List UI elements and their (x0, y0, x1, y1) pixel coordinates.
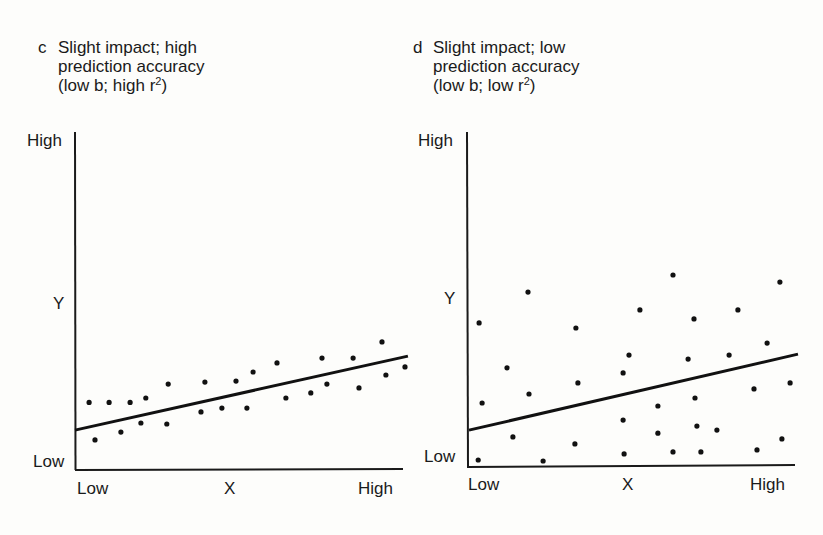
data-point (692, 395, 697, 400)
data-point (622, 451, 627, 456)
data-point (504, 365, 509, 370)
data-point (128, 400, 133, 405)
data-point (694, 424, 699, 429)
data-point (274, 360, 279, 365)
data-point (87, 400, 92, 405)
data-point (164, 421, 169, 426)
data-point (655, 431, 660, 436)
data-point (698, 449, 703, 454)
data-point (626, 353, 631, 358)
panel-c-y-axis (75, 132, 76, 470)
data-point (166, 382, 171, 387)
data-point (480, 400, 485, 405)
scatter-plots (0, 0, 823, 535)
data-point (754, 447, 759, 452)
data-point (621, 370, 626, 375)
data-point (143, 395, 148, 400)
data-point (714, 428, 719, 433)
data-point (379, 339, 384, 344)
data-point (637, 307, 642, 312)
data-point (107, 400, 112, 405)
data-point (244, 406, 249, 411)
data-point (356, 385, 361, 390)
data-point (670, 449, 675, 454)
data-point (691, 316, 696, 321)
data-point (351, 356, 356, 361)
panel-c-regression-line (75, 356, 408, 430)
data-point (735, 307, 740, 312)
data-point (573, 325, 578, 330)
data-point (779, 436, 784, 441)
data-point (138, 420, 143, 425)
data-point (670, 272, 675, 277)
panel-d-x-axis (467, 465, 795, 467)
data-point (283, 395, 288, 400)
data-point (575, 380, 580, 385)
data-point (777, 280, 782, 285)
data-point (477, 320, 482, 325)
data-point (572, 441, 577, 446)
data-point (402, 364, 407, 369)
data-point (383, 372, 388, 377)
data-point (727, 353, 732, 358)
data-point (308, 390, 313, 395)
data-point (751, 386, 756, 391)
data-point (525, 290, 530, 295)
data-point (526, 391, 531, 396)
data-point (92, 437, 97, 442)
data-point (541, 458, 546, 463)
panel-d-y-axis (467, 132, 468, 467)
data-point (621, 418, 626, 423)
data-point (788, 380, 793, 385)
data-point (251, 369, 256, 374)
data-point (202, 380, 207, 385)
data-point (655, 403, 660, 408)
data-point (510, 434, 515, 439)
data-point (198, 409, 203, 414)
data-point (765, 341, 770, 346)
data-point (219, 406, 224, 411)
data-point (686, 357, 691, 362)
data-point (319, 356, 324, 361)
panel-d-points (476, 272, 793, 463)
data-point (118, 430, 123, 435)
data-point (476, 457, 481, 462)
panel-c-x-axis (75, 469, 403, 470)
data-point (233, 379, 238, 384)
panel-d-regression-line (469, 354, 798, 430)
data-point (324, 382, 329, 387)
